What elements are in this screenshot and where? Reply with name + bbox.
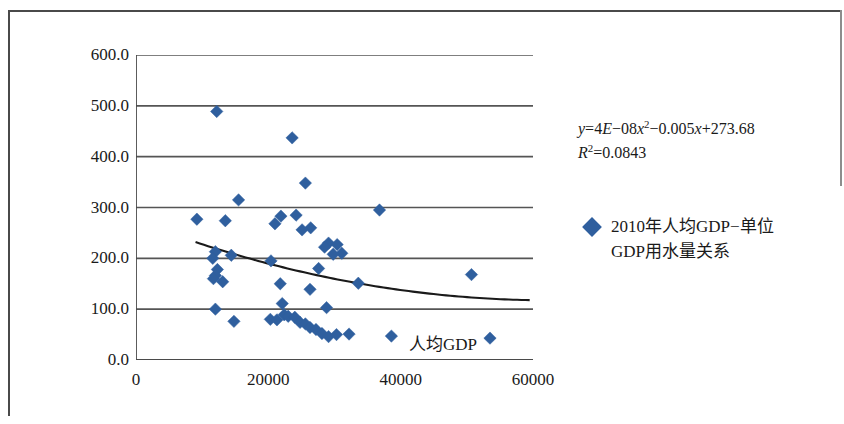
regression-r-squared: R2=0.0843 [578,141,755,165]
regression-equation-line1: y=4E−08x2−0.005x+273.68 [578,117,755,141]
chart-legend: 2010年人均GDP−单位 GDP用水量关系 [585,215,811,264]
legend-label: 2010年人均GDP−单位 GDP用水量关系 [611,215,811,264]
y-axis-tick-label: 100.0 [91,299,129,319]
x-axis-tick-label: 20000 [247,370,290,390]
y-axis-tick-label: 400.0 [91,147,129,167]
x-axis-tick-label: 60000 [512,370,555,390]
plot-area: 0.0100.0200.0300.0400.0500.0600.0 020000… [136,55,533,360]
y-axis-tick-label: 600.0 [91,45,129,65]
figure-border-top [8,10,842,12]
legend-label-line2: GDP用水量关系 [611,240,811,265]
scatter-plot-svg [136,55,533,360]
legend-label-line1: 2010年人均GDP−单位 [611,215,811,240]
x-axis-tick-label: 40000 [379,370,422,390]
y-axis-tick-label: 500.0 [91,96,129,116]
figure-border-left [8,10,10,416]
y-axis-tick-label: 200.0 [91,248,129,268]
y-axis-tick-label: 0.0 [108,350,129,370]
trendline [196,242,530,300]
x-axis-tick-label: 0 [132,370,141,390]
figure-container: 单位GDP用水量/（m³/万元） 人均GDP 0.0100.0200.0300.… [0,0,844,424]
y-axis-tick-label: 300.0 [91,198,129,218]
regression-equation: y=4E−08x2−0.005x+273.68 R2=0.0843 [578,117,755,165]
legend-diamond-icon [582,217,602,237]
figure-border-right [840,10,842,186]
